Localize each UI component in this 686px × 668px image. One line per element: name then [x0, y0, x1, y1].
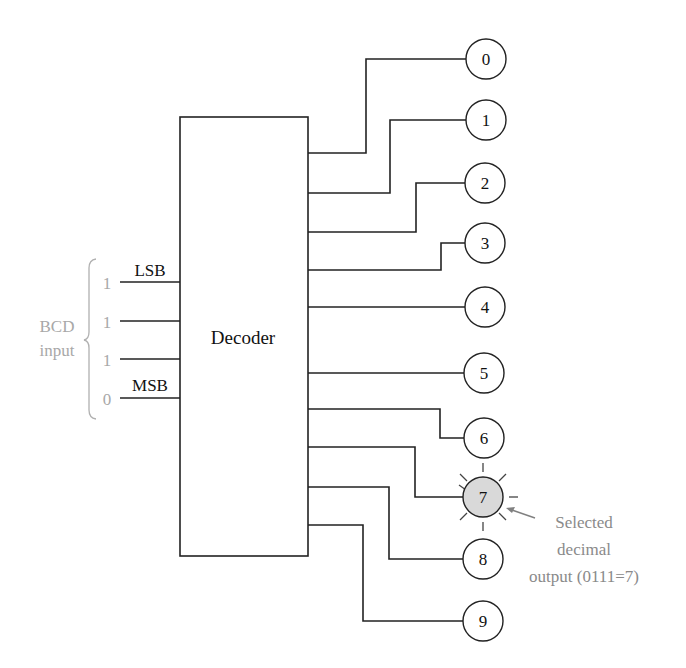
- bcd-label: BCD: [40, 317, 75, 336]
- annotation-line-1: Selected: [555, 513, 613, 532]
- input-bit-0: 1: [103, 274, 112, 293]
- output-nodes: 0 1 2 3 4 5 6 7: [463, 39, 506, 641]
- output-label-3: 3: [481, 234, 490, 253]
- bcd-inputs: LSB MSB 1 1 1 0 BCD input: [40, 259, 180, 419]
- output-label-6: 6: [480, 429, 489, 448]
- output-label-7: 7: [479, 488, 488, 507]
- output-node-3: 3: [465, 223, 505, 263]
- bcd-brace-icon: [84, 259, 96, 419]
- output-node-2: 2: [465, 163, 505, 203]
- output-label-4: 4: [481, 298, 490, 317]
- output-wires: [308, 59, 466, 621]
- output-node-4: 4: [465, 287, 505, 327]
- output-wire-2: [308, 183, 465, 232]
- output-node-5: 5: [464, 353, 504, 393]
- output-node-1: 1: [466, 100, 506, 140]
- input-bit-1: 1: [103, 313, 112, 332]
- output-node-7-selected: 7: [463, 477, 503, 517]
- output-label-5: 5: [480, 364, 489, 383]
- output-label-2: 2: [481, 174, 490, 193]
- output-wire-7: [308, 447, 463, 497]
- input-bit-3: 0: [103, 390, 112, 409]
- annotation-line-3: output (0111=7): [529, 567, 639, 586]
- input-label: input: [40, 341, 75, 360]
- output-node-9: 9: [463, 601, 503, 641]
- output-wire-0: [308, 59, 466, 153]
- output-node-0: 0: [466, 39, 506, 79]
- output-node-6: 6: [464, 418, 504, 458]
- output-label-0: 0: [482, 50, 491, 69]
- output-label-8: 8: [479, 550, 488, 569]
- bcd-decoder-diagram: Decoder LSB MSB 1 1 1 0 BCD input: [0, 0, 686, 668]
- output-wire-6: [308, 409, 464, 438]
- output-label-9: 9: [479, 612, 488, 631]
- decoder-block: Decoder: [180, 117, 308, 556]
- input-bit-2: 1: [103, 351, 112, 370]
- output-wire-3: [308, 243, 465, 270]
- msb-label: MSB: [132, 376, 168, 395]
- output-node-8: 8: [463, 539, 503, 579]
- annotation-line-2: decimal: [557, 540, 611, 559]
- output-wire-9: [308, 525, 463, 621]
- selected-output-annotation: Selected decimal output (0111=7): [506, 507, 639, 586]
- lsb-label: LSB: [134, 261, 165, 280]
- output-label-1: 1: [482, 111, 491, 130]
- decoder-label: Decoder: [211, 327, 276, 348]
- output-wire-1: [308, 120, 466, 193]
